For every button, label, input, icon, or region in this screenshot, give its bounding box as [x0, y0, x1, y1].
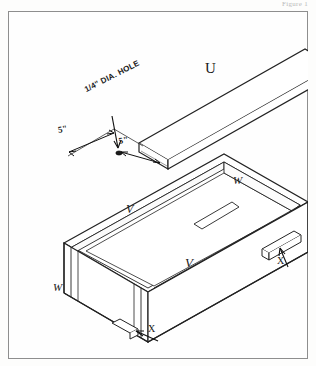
- annotation-dimension-right: 5": [118, 135, 129, 146]
- lid-part: [139, 49, 308, 169]
- label-end-panel-left-w: W: [53, 281, 62, 293]
- figure-caption: Figure 1: [282, 0, 308, 8]
- drawing-page: Figure 1: [0, 0, 316, 366]
- dimension-left: [69, 130, 114, 156]
- box-technical-drawing: [8, 11, 308, 359]
- label-side-panel-front-v: V: [185, 255, 193, 271]
- lid-layout-lines: [68, 129, 143, 156]
- label-end-panel-right-w: W: [233, 174, 242, 186]
- label-side-panel-back-v: V: [126, 202, 133, 217]
- label-lid-u: U: [205, 60, 216, 77]
- label-cleat-front-x: X: [148, 323, 155, 334]
- box-body-part: [64, 154, 308, 342]
- annotation-dimension-left: 5": [57, 123, 68, 134]
- label-cleat-right-x: X: [277, 255, 284, 266]
